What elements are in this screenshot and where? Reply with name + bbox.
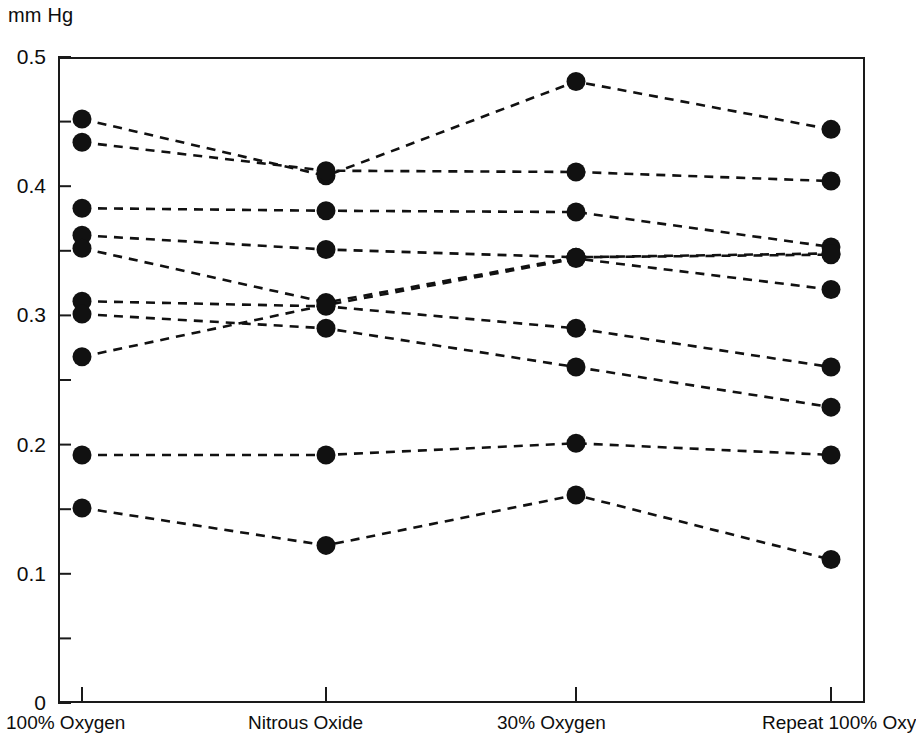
x-tick-label: 30% Oxygen <box>497 712 606 734</box>
y-tick-label: 0.1 <box>17 562 46 586</box>
y-tick-label: 0.3 <box>17 303 46 327</box>
y-tick-label: 0.4 <box>17 174 46 198</box>
plot-frame <box>58 57 865 703</box>
x-tick-label: Nitrous Oxide <box>248 712 363 734</box>
x-tick-label: 100% Oxygen <box>6 712 125 734</box>
x-tick-label: Repeat 100% Oxy <box>762 712 916 734</box>
y-tick-label: 0.2 <box>17 433 46 457</box>
y-tick-label: 0.5 <box>17 45 46 69</box>
y-axis-unit-label: mm Hg <box>8 4 73 27</box>
